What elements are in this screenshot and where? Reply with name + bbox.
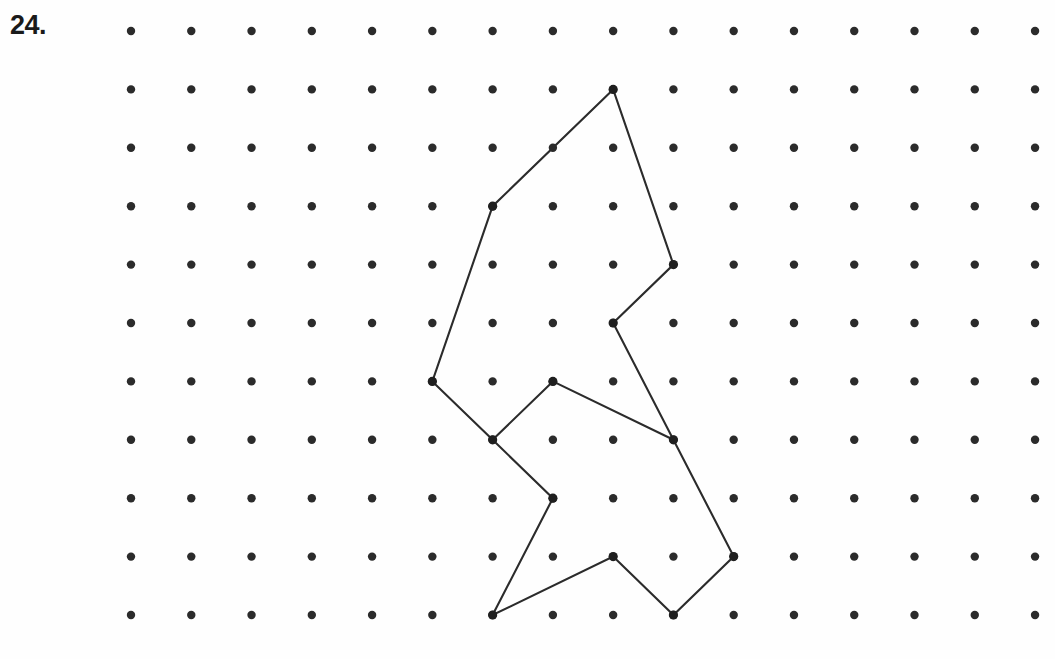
grid-dot <box>127 144 135 152</box>
polygon-vertex-dot <box>609 552 618 561</box>
grid-dot <box>910 27 918 35</box>
grid-dot <box>1031 319 1039 327</box>
grid-dot <box>428 27 436 35</box>
grid-dot <box>549 27 557 35</box>
grid-dot <box>549 552 557 560</box>
grid-dot <box>790 436 798 444</box>
grid-dot <box>609 144 617 152</box>
grid-dot <box>850 494 858 502</box>
grid-dot <box>127 260 135 268</box>
grid-dot <box>247 494 255 502</box>
grid-dot <box>850 319 858 327</box>
grid-dot <box>368 494 376 502</box>
grid-dot <box>850 260 858 268</box>
grid-dot <box>910 144 918 152</box>
grid-dot <box>971 436 979 444</box>
grid-dot <box>127 27 135 35</box>
grid-dot <box>187 144 195 152</box>
grid-dot <box>910 611 918 619</box>
grid-dot <box>488 260 496 268</box>
grid-dot <box>730 27 738 35</box>
grid-dot <box>368 260 376 268</box>
grid-dot <box>730 85 738 93</box>
grid-dot <box>910 494 918 502</box>
grid-dot <box>187 202 195 210</box>
grid-dot <box>127 377 135 385</box>
grid-dot <box>971 377 979 385</box>
grid-dot <box>609 494 617 502</box>
grid-dot <box>428 319 436 327</box>
grid-dot <box>187 85 195 93</box>
grid-dot <box>669 377 677 385</box>
grid-dot <box>308 377 316 385</box>
grid-dot <box>549 611 557 619</box>
grid-dot <box>790 319 798 327</box>
grid-dot <box>910 202 918 210</box>
grid-dot <box>850 27 858 35</box>
grid-dot <box>790 377 798 385</box>
grid-dot <box>910 260 918 268</box>
grid-dot <box>488 27 496 35</box>
grid-dot <box>669 27 677 35</box>
grid-dot <box>730 260 738 268</box>
grid-dot <box>488 319 496 327</box>
grid-dot <box>1031 611 1039 619</box>
grid-dot <box>1031 377 1039 385</box>
grid-dot <box>488 552 496 560</box>
grid-dot <box>308 436 316 444</box>
grid-dot <box>549 319 557 327</box>
grid-dot <box>308 85 316 93</box>
grid-dot <box>247 260 255 268</box>
grid-dot <box>488 144 496 152</box>
grid-dot <box>910 85 918 93</box>
grid-dot <box>428 260 436 268</box>
grid-dot <box>308 611 316 619</box>
grid-dot <box>609 27 617 35</box>
grid-dot <box>488 494 496 502</box>
grid-dot <box>187 260 195 268</box>
grid-dot <box>730 611 738 619</box>
grid-dot <box>1031 494 1039 502</box>
grid-dot <box>127 494 135 502</box>
grid-dot <box>247 144 255 152</box>
grid-dot <box>850 436 858 444</box>
grid-dot <box>971 144 979 152</box>
grid-dot <box>669 319 677 327</box>
grid-dot <box>247 552 255 560</box>
grid-dot <box>127 85 135 93</box>
grid-dot <box>247 377 255 385</box>
polygon-vertex-dot <box>729 552 738 561</box>
polygon-inner-segment-2 <box>493 381 553 439</box>
grid-dot <box>790 260 798 268</box>
polygon-vertex-dot <box>669 610 678 619</box>
dot-grid-layer <box>127 27 1039 619</box>
grid-dot <box>127 552 135 560</box>
grid-dot <box>368 377 376 385</box>
polygon-vertex-dot <box>609 318 618 327</box>
grid-dot <box>187 319 195 327</box>
grid-dot <box>730 144 738 152</box>
grid-dot <box>187 552 195 560</box>
polygon-inner-segment <box>553 381 674 439</box>
polygon-outline <box>432 89 733 615</box>
grid-dot <box>971 260 979 268</box>
grid-dot <box>850 377 858 385</box>
grid-dot <box>488 85 496 93</box>
grid-dot <box>669 202 677 210</box>
grid-dot <box>971 552 979 560</box>
grid-dot <box>187 377 195 385</box>
grid-dot <box>549 85 557 93</box>
geoboard-figure <box>0 0 1055 659</box>
grid-dot <box>428 85 436 93</box>
grid-dot <box>368 85 376 93</box>
grid-dot <box>247 85 255 93</box>
grid-dot <box>730 319 738 327</box>
grid-dot <box>971 494 979 502</box>
grid-dot <box>790 494 798 502</box>
grid-dot <box>127 436 135 444</box>
grid-dot <box>910 552 918 560</box>
grid-dot <box>669 552 677 560</box>
grid-dot <box>187 494 195 502</box>
worksheet-page: 24. <box>0 0 1055 659</box>
polygon-vertex-dot <box>428 377 437 386</box>
